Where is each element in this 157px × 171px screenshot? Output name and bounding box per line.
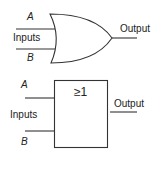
inputs-label: Inputs bbox=[13, 32, 40, 43]
or-gate-iec: ≥1 A Inputs B Output bbox=[10, 79, 144, 148]
or-gate-ansi: A Inputs B Output bbox=[13, 11, 150, 63]
input-a-label: A bbox=[20, 79, 28, 90]
or-gate-body bbox=[50, 14, 112, 63]
output-label: Output bbox=[114, 98, 144, 109]
inputs-label: Inputs bbox=[10, 109, 37, 120]
input-b-label: B bbox=[27, 52, 34, 63]
gate-symbol-label: ≥1 bbox=[74, 85, 88, 99]
or-gate-diagrams: A Inputs B Output ≥1 A Inputs B Output bbox=[0, 0, 157, 171]
input-b-label: B bbox=[21, 136, 28, 147]
output-label: Output bbox=[120, 23, 150, 34]
input-a-label: A bbox=[26, 11, 34, 22]
